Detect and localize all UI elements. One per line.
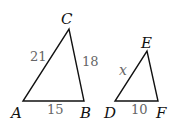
vertex-label-a: A — [9, 104, 22, 122]
vertex-label-f: F — [155, 104, 167, 122]
vertex-label-b: B — [79, 104, 91, 122]
vertex-label-c: C — [61, 10, 73, 28]
side-label-bc: 18 — [82, 54, 99, 69]
vertex-label-e: E — [140, 34, 152, 52]
side-label-df: 10 — [131, 102, 148, 117]
vertex-label-d: D — [103, 104, 116, 122]
similar-triangles-diagram: C A B 21 18 15 E D F x 10 — [0, 0, 174, 126]
triangle-abc — [23, 29, 84, 101]
side-label-de: x — [119, 62, 127, 78]
side-label-ac: 21 — [30, 49, 47, 64]
side-label-ab: 15 — [47, 102, 64, 117]
